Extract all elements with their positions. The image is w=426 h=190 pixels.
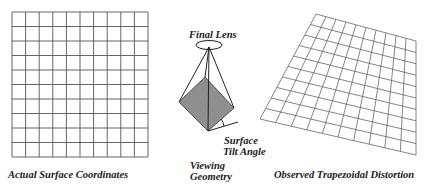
caption-observed-distortion: Observed Trapezoidal Distortion	[274, 169, 414, 180]
caption-actual-surface: Actual Surface Coordinates	[8, 169, 128, 180]
label-tilt-angle: Tilt Angle	[223, 146, 266, 157]
label-final-lens: Final Lens	[189, 29, 237, 40]
tilted-surface	[179, 77, 234, 131]
caption-geometry: Geometry	[190, 171, 232, 182]
label-surface: Surface	[224, 135, 258, 146]
actual-surface-grid	[12, 12, 148, 157]
tilt-angle-arc	[221, 119, 224, 126]
trapezoidal-distortion-grid	[260, 14, 416, 155]
caption-viewing: Viewing	[190, 160, 225, 171]
viewing-geometry-diagram	[179, 41, 238, 132]
